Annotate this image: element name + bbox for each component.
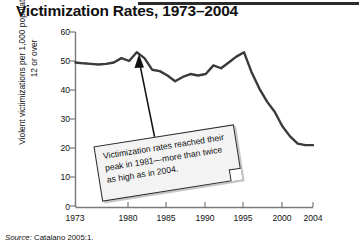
source-text: Catalano 2005:1. <box>34 233 93 242</box>
x-axis-ticks <box>76 202 314 207</box>
annotation-arrow <box>135 54 156 139</box>
source-prefix: Source: <box>5 233 32 242</box>
y-axis-ticks <box>70 32 76 206</box>
plot-area <box>0 0 359 249</box>
source-note: Source: Catalano 2005:1. <box>5 233 93 242</box>
callout-fold-corner <box>229 168 243 182</box>
chart-figure: Victimization Rates, 1973–2004 Violent v… <box>0 0 359 249</box>
